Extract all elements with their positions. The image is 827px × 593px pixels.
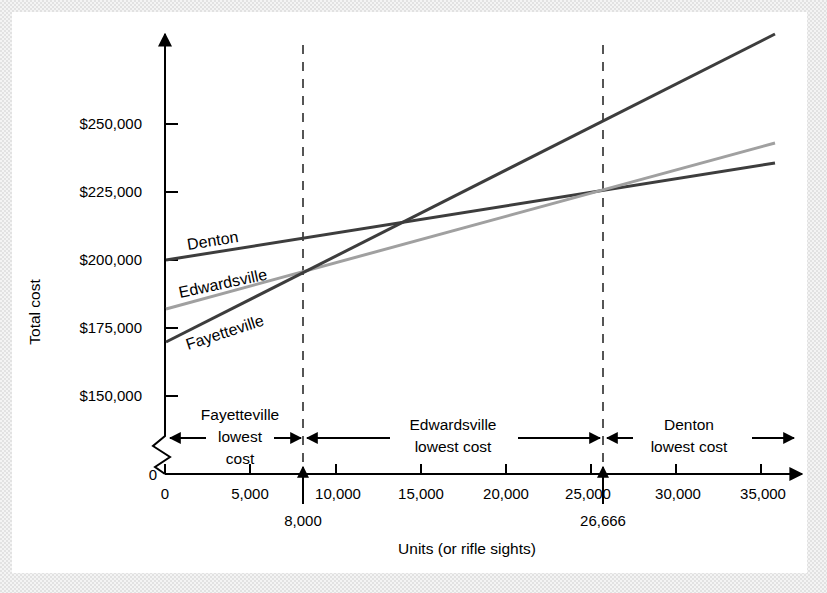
x-axis-label: Units (or rifle sights) — [398, 540, 536, 557]
x-tick-label-25000: 25,000 — [565, 485, 611, 502]
x-tick-label-30000: 30,000 — [655, 485, 701, 502]
x-tick-label-0: 0 — [161, 485, 169, 502]
line-chart: Total cost $250,000 $225,000 $200,000 $1… — [12, 12, 807, 573]
y-tick-label-150000: $150,000 — [79, 387, 142, 404]
y-tick-label-175000: $175,000 — [79, 319, 142, 336]
series-line-fayetteville — [166, 34, 775, 342]
x-tick-label-5000: 5,000 — [231, 485, 269, 502]
breakeven-label-8000: 8,000 — [284, 512, 322, 529]
chart-plate: Total cost $250,000 $225,000 $200,000 $1… — [12, 12, 807, 573]
breakeven-label-26666: 26,666 — [580, 512, 626, 529]
x-tick-label-20000: 20,000 — [483, 485, 529, 502]
series-label-fayetteville: Fayetteville — [184, 312, 266, 353]
figure-frame: Total cost $250,000 $225,000 $200,000 $1… — [0, 0, 827, 593]
region-label-denton-line2: lowest cost — [651, 438, 728, 455]
region-label-denton-line1: Denton — [664, 416, 714, 433]
region-label-edwardsville-line1: Edwardsville — [409, 416, 496, 433]
y-axis-zero-label: 0 — [149, 466, 157, 483]
y-tick-label-225000: $225,000 — [79, 183, 142, 200]
x-tick-label-15000: 15,000 — [398, 485, 444, 502]
region-label-fayetteville-line2: lowest — [218, 428, 263, 445]
x-tick-label-10000: 10,000 — [315, 485, 361, 502]
region-label-fayetteville-line3: cost — [226, 450, 255, 467]
y-axis-label: Total cost — [26, 279, 43, 345]
region-label-fayetteville-line1: Fayetteville — [201, 406, 279, 423]
x-tick-label-35000: 35,000 — [740, 485, 786, 502]
y-tick-label-250000: $250,000 — [79, 115, 142, 132]
region-label-edwardsville-line2: lowest cost — [415, 438, 492, 455]
series-line-denton — [166, 163, 775, 260]
y-tick-label-200000: $200,000 — [79, 251, 142, 268]
